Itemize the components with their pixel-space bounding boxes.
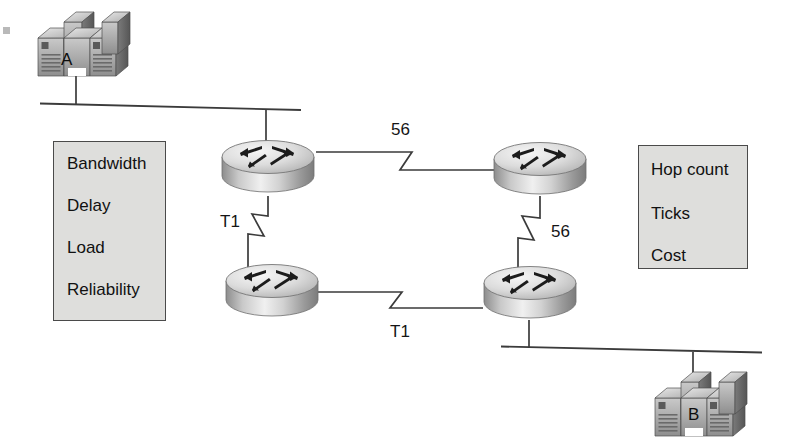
serial-link-bottom-path <box>316 292 483 308</box>
metric-ticks: Ticks <box>651 204 690 224</box>
metric-delay: Delay <box>67 196 110 216</box>
host-a-label: A <box>61 50 72 70</box>
router-top-right <box>494 143 586 195</box>
serial-link-right-path <box>518 196 540 270</box>
serial-link-right-label: 56 <box>551 222 570 242</box>
host-b-icon <box>655 372 747 436</box>
ethernet-segment-bottom <box>501 347 762 353</box>
metric-reliability: Reliability <box>67 280 140 300</box>
serial-link-top-label: 56 <box>391 120 410 140</box>
router-bottom-left <box>226 265 318 317</box>
metric-bandwidth: Bandwidth <box>67 154 146 174</box>
host-b-label: B <box>688 405 699 425</box>
serial-link-top-path <box>316 152 495 170</box>
serial-link-left-label: T1 <box>220 212 240 232</box>
metric-cost: Cost <box>651 246 686 266</box>
router-top-left <box>222 141 314 193</box>
ethernet-segment-top <box>40 104 301 111</box>
serial-link-bottom-label: T1 <box>390 322 410 342</box>
serial-link-left-path <box>248 196 268 268</box>
router-bottom-right <box>484 267 576 319</box>
network-diagram-canvas: Bandwidth Delay Load Reliability Hop cou… <box>0 0 807 447</box>
metric-load: Load <box>67 238 105 258</box>
metric-hop-count: Hop count <box>651 160 729 180</box>
host-a-icon <box>38 12 130 76</box>
